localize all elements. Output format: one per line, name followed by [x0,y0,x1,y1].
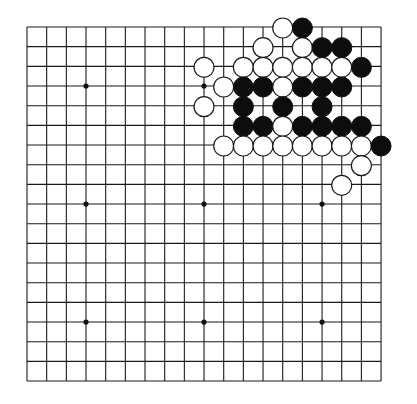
board-point[interactable] [313,234,332,253]
board-point[interactable] [116,136,135,155]
board-point[interactable] [155,18,174,37]
black-stone-icon[interactable] [253,116,273,136]
board-point[interactable] [37,313,56,332]
board-point[interactable] [195,372,214,391]
board-point[interactable] [332,254,351,273]
board-point[interactable] [136,116,155,135]
board-point[interactable] [214,273,233,292]
board-point[interactable] [214,175,233,194]
board-point[interactable] [155,293,174,312]
white-stone-icon[interactable] [312,57,332,77]
board-point[interactable] [234,18,253,37]
white-stone-icon[interactable] [351,156,371,176]
board-point[interactable] [372,116,391,135]
white-stone-icon[interactable] [194,57,214,77]
board-point[interactable] [234,37,253,56]
board-point[interactable] [77,18,96,37]
board-point[interactable] [57,116,76,135]
board-point[interactable] [77,155,96,174]
board-point[interactable] [372,234,391,253]
board-point[interactable] [116,214,135,233]
board-point[interactable] [136,332,155,351]
board-point[interactable] [77,116,96,135]
board-point[interactable] [136,352,155,371]
board-point[interactable] [352,214,371,233]
board-point[interactable] [57,155,76,174]
board-point[interactable] [313,254,332,273]
board-point[interactable] [372,332,391,351]
board-point[interactable] [234,273,253,292]
board-point[interactable] [352,18,371,37]
board-point[interactable] [116,116,135,135]
board-point[interactable] [175,77,194,96]
board-point[interactable] [116,175,135,194]
board-point[interactable] [254,96,273,115]
board-point[interactable] [175,372,194,391]
board-point[interactable] [96,332,115,351]
board-point[interactable] [18,214,37,233]
board-point[interactable] [195,214,214,233]
board-point[interactable] [195,175,214,194]
board-point[interactable] [155,195,174,214]
board-point[interactable] [214,332,233,351]
board-point[interactable] [136,234,155,253]
board-point[interactable] [57,77,76,96]
board-point[interactable] [293,234,312,253]
board-point[interactable] [96,372,115,391]
board-point[interactable] [155,155,174,174]
board-point[interactable] [352,175,371,194]
board-point[interactable] [37,273,56,292]
board-point[interactable] [214,352,233,371]
board-point[interactable] [195,313,214,332]
white-stone-icon[interactable] [273,116,293,136]
board-point[interactable] [273,195,292,214]
board-point[interactable] [116,195,135,214]
board-point[interactable] [96,313,115,332]
board-point[interactable] [37,116,56,135]
board-point[interactable] [116,57,135,76]
board-point[interactable] [332,313,351,332]
board-point[interactable] [57,136,76,155]
board-point[interactable] [293,332,312,351]
board-point[interactable] [77,372,96,391]
black-stone-icon[interactable] [292,77,312,97]
board-point[interactable] [195,254,214,273]
board-point[interactable] [273,214,292,233]
board-point[interactable] [18,293,37,312]
board-point[interactable] [332,352,351,371]
board-point[interactable] [136,155,155,174]
board-point[interactable] [18,352,37,371]
board-point[interactable] [57,175,76,194]
board-point[interactable] [175,234,194,253]
board-point[interactable] [372,195,391,214]
board-point[interactable] [254,293,273,312]
board-point[interactable] [57,214,76,233]
board-point[interactable] [332,96,351,115]
board-point[interactable] [293,155,312,174]
board-point[interactable] [372,155,391,174]
board-point[interactable] [352,234,371,253]
board-point[interactable] [293,372,312,391]
board-point[interactable] [372,175,391,194]
board-point[interactable] [57,332,76,351]
board-point[interactable] [136,18,155,37]
board-point[interactable] [313,352,332,371]
board-point[interactable] [293,195,312,214]
board-point[interactable] [57,313,76,332]
board-point[interactable] [57,57,76,76]
board-point[interactable] [372,273,391,292]
board-point[interactable] [372,372,391,391]
board-point[interactable] [214,18,233,37]
board-point[interactable] [293,254,312,273]
board-point[interactable] [313,214,332,233]
board-point[interactable] [352,352,371,371]
board-point[interactable] [313,313,332,332]
board-point[interactable] [96,116,115,135]
board-point[interactable] [214,155,233,174]
board-point[interactable] [175,175,194,194]
board-point[interactable] [37,234,56,253]
board-point[interactable] [77,273,96,292]
black-stone-icon[interactable] [233,97,253,117]
board-point[interactable] [155,254,174,273]
board-point[interactable] [57,96,76,115]
